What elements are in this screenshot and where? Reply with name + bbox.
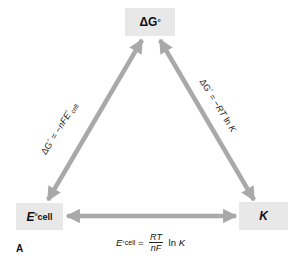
right-double-arrow [160, 40, 254, 200]
node-e-cell: E°cell [16, 203, 63, 230]
bottom-edge-equation: E°cell = RTnF ln K [116, 232, 185, 253]
figure-panel-label: A [16, 243, 23, 254]
cell-subscript: cell [38, 212, 53, 222]
delta-g-symbol: ΔG [139, 15, 157, 29]
node-k: K [239, 202, 288, 230]
rt-over-nf-fraction: RTnF [149, 232, 163, 253]
node-delta-g: ΔG° [125, 8, 175, 36]
standard-state-mark: ° [157, 18, 160, 27]
e-symbol: E [26, 210, 34, 224]
k-symbol: K [259, 209, 268, 223]
